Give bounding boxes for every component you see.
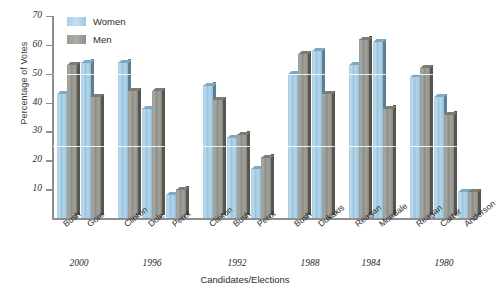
bar-side <box>162 88 165 215</box>
year-label-1984: 1984 <box>341 258 401 268</box>
bar-women-bush-2000 <box>57 94 67 218</box>
bar-face <box>81 62 91 218</box>
bar-side <box>454 111 457 215</box>
bar-face <box>152 91 162 218</box>
bar-men-bush-1992 <box>237 134 247 218</box>
bar-side <box>247 131 250 215</box>
bar-face <box>213 100 223 218</box>
y-tick-label: 60 <box>18 39 42 49</box>
bar-face <box>128 91 138 218</box>
bar-face <box>322 94 332 218</box>
bar-women-gore-2000 <box>81 62 91 218</box>
gridline <box>53 74 477 75</box>
bar-face <box>359 39 369 218</box>
y-tick-label: 30 <box>18 125 42 135</box>
bar-men-reagan-1980 <box>420 68 430 218</box>
bar-face <box>166 195 176 218</box>
year-label-1992: 1992 <box>207 258 267 268</box>
bar-face <box>251 169 261 218</box>
bar-face <box>373 42 383 218</box>
bar-men-clinton-1992 <box>213 100 223 218</box>
bar-women-reagan-1980 <box>410 77 420 218</box>
bar-face <box>91 97 101 218</box>
bar-men-bush-1988 <box>298 54 308 218</box>
year-label-2000: 2000 <box>49 258 109 268</box>
bar-face <box>142 108 152 218</box>
bar-face <box>444 114 454 218</box>
bar-men-dole-1996 <box>152 91 162 218</box>
bar-side <box>138 88 141 215</box>
year-label-1988: 1988 <box>280 258 340 268</box>
bar-face <box>203 85 213 218</box>
bar-face <box>57 94 67 218</box>
y-tick-label: 10 <box>18 183 42 193</box>
year-label-1996: 1996 <box>122 258 182 268</box>
bar-face <box>410 77 420 218</box>
year-label-1980: 1980 <box>414 258 474 268</box>
bar-men-clinton-1996 <box>128 91 138 218</box>
bar-women-clinton-1992 <box>203 85 213 218</box>
bar-women-dole-1996 <box>142 108 152 218</box>
plot-area <box>53 16 477 218</box>
bar-face <box>118 62 128 218</box>
bar-face <box>383 108 393 218</box>
bar-women-perot-1992 <box>251 169 261 218</box>
bar-women-reagan-1984 <box>349 65 359 218</box>
bar-side <box>308 51 311 215</box>
y-tick-label: 20 <box>18 154 42 164</box>
gridline <box>53 146 477 147</box>
bar-side <box>271 154 274 215</box>
y-tick-label: 50 <box>18 68 42 78</box>
bar-face <box>312 51 322 218</box>
bar-women-mondale-1984 <box>373 42 383 218</box>
bar-men-bush-2000 <box>67 65 77 218</box>
bar-face <box>237 134 247 218</box>
bar-side <box>393 105 396 215</box>
bar-side <box>332 91 335 215</box>
bar-side <box>223 97 226 215</box>
x-axis-title: Candidates/Elections <box>0 274 490 285</box>
y-tick-label: 40 <box>18 97 42 107</box>
bar-women-perot-1996 <box>166 195 176 218</box>
bar-side <box>430 65 433 215</box>
bar-men-gore-2000 <box>91 97 101 218</box>
bar-women-clinton-1996 <box>118 62 128 218</box>
bar-men-dukakis-1988 <box>322 94 332 218</box>
bar-men-mondale-1984 <box>383 108 393 218</box>
bar-face <box>298 54 308 218</box>
bar-side <box>369 36 372 215</box>
bar-women-dukakis-1988 <box>312 51 322 218</box>
bar-face <box>420 68 430 218</box>
bar-face <box>67 65 77 218</box>
bar-side <box>77 62 80 215</box>
y-tick-label: 70 <box>18 10 42 20</box>
bar-men-carter-1980 <box>444 114 454 218</box>
bar-face <box>349 65 359 218</box>
bar-side <box>101 94 104 215</box>
bar-men-reagan-1984 <box>359 39 369 218</box>
